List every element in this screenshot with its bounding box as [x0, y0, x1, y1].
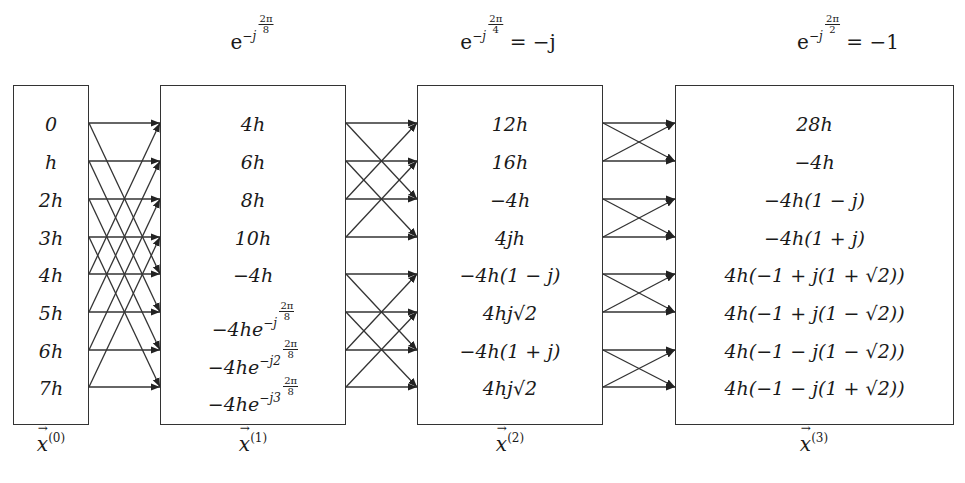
x0-value-2: 2h: [14, 188, 88, 212]
x2-value-1: 16h: [418, 150, 602, 174]
x1-value-2: 8h: [161, 188, 345, 212]
stage-2-label: x(2): [496, 431, 524, 456]
x3-value-3: −4h(1 + j): [676, 226, 953, 250]
stage-3-label: x(3): [800, 431, 828, 456]
x1-value-6-exp: −j2: [259, 354, 280, 368]
x2-value-7: 4hj√2: [418, 376, 602, 400]
x0-value-1: h: [14, 150, 88, 174]
x2-value-0: 12h: [418, 112, 602, 136]
x0-value-7: 7h: [14, 376, 88, 400]
x1-value-5: −4he−j 2π8: [161, 301, 345, 325]
fft-butterfly-diagram: e−j 2π8 e−j 2π4 = −j e−j 2π2 = −1 0 h 2h…: [0, 0, 965, 483]
x2-value-5: 4hj√2: [418, 301, 602, 325]
x3-value-2: −4h(1 − j): [676, 188, 953, 212]
x1-value-7-exp: −j3: [259, 391, 280, 405]
x3-value-1: −4h: [676, 150, 953, 174]
x1-value-1: 6h: [161, 150, 345, 174]
x0-value-4: 4h: [14, 263, 88, 287]
stage-0-box: 0 h 2h 3h 4h 5h 6h 7h: [13, 85, 89, 425]
x1-value-7: −4he−j3 2π8: [161, 376, 345, 400]
x0-value-5: 5h: [14, 301, 88, 325]
x1-value-3: 10h: [161, 226, 345, 250]
x3-value-6: 4h(−1 − j(1 − √2)): [676, 339, 953, 363]
stage-index: (2): [507, 431, 524, 445]
x2-value-2: −4h: [418, 188, 602, 212]
stage-index: (0): [48, 431, 65, 445]
stage-1-box: 4h 6h 8h 10h −4h −4he−j 2π8 −4he−j2 2π8 …: [160, 85, 346, 425]
vector-symbol: x: [800, 432, 811, 456]
frac-den: 8: [283, 350, 298, 360]
x1-value-5-exp: −j: [263, 316, 277, 330]
stage-3-box: 28h −4h −4h(1 − j) −4h(1 + j) 4h(−1 + j(…: [675, 85, 954, 425]
vector-symbol: x: [496, 432, 507, 456]
x0-value-6: 6h: [14, 339, 88, 363]
x1-value-6-base: −4he: [208, 356, 260, 378]
vector-symbol: x: [37, 432, 48, 456]
frac-den: 8: [279, 312, 294, 322]
stage-0-label: x(0): [37, 431, 65, 456]
stage-index: (3): [811, 431, 828, 445]
vector-symbol: x: [239, 432, 250, 456]
frac-den: 8: [283, 387, 298, 397]
x3-value-4: 4h(−1 + j(1 + √2)): [676, 263, 953, 287]
x3-value-7: 4h(−1 − j(1 + √2)): [676, 376, 953, 400]
stage-index: (1): [250, 431, 267, 445]
x0-value-0: 0: [14, 112, 88, 136]
x1-value-6: −4he−j2 2π8: [161, 339, 345, 363]
x2-value-3: 4jh: [418, 226, 602, 250]
x2-value-4: −4h(1 − j): [418, 263, 602, 287]
x1-value-0: 4h: [161, 112, 345, 136]
stage-1-label: x(1): [239, 431, 267, 456]
x1-value-5-base: −4he: [212, 318, 264, 340]
x1-value-4: −4h: [161, 263, 345, 287]
x3-value-5: 4h(−1 + j(1 − √2)): [676, 301, 953, 325]
x2-value-6: −4h(1 + j): [418, 339, 602, 363]
x1-value-7-base: −4he: [208, 393, 260, 415]
x3-value-0: 28h: [676, 112, 953, 136]
stage-2-box: 12h 16h −4h 4jh −4h(1 − j) 4hj√2 −4h(1 +…: [417, 85, 603, 425]
x0-value-3: 3h: [14, 226, 88, 250]
